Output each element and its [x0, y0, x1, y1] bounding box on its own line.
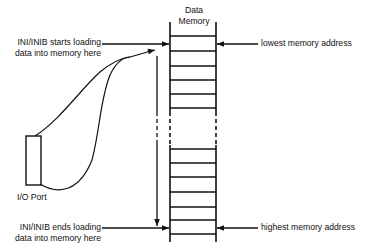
start-label-line1: INI/INIB starts loading — [0, 37, 101, 48]
memory-rows — [170, 36, 216, 234]
highest-address-label: highest memory address — [261, 222, 355, 233]
memory-title-line2: Memory — [172, 16, 216, 27]
start-label: INI/INIB starts loading data into memory… — [0, 37, 101, 59]
memory-title-line1: Data — [172, 5, 216, 16]
start-label-line2: data into memory here — [0, 48, 101, 59]
io-port-label: I/O Port — [17, 192, 47, 203]
end-label: INI/INIB ends loading data into memory h… — [0, 222, 101, 244]
data-memory-block — [170, 22, 216, 242]
data-flow-curves — [35, 50, 155, 190]
end-label-line2: data into memory here — [0, 233, 101, 244]
lowest-address-label: lowest memory address — [261, 38, 352, 49]
io-port-box — [26, 136, 41, 185]
memory-title: Data Memory — [172, 5, 216, 27]
end-label-line1: INI/INIB ends loading — [0, 222, 101, 233]
